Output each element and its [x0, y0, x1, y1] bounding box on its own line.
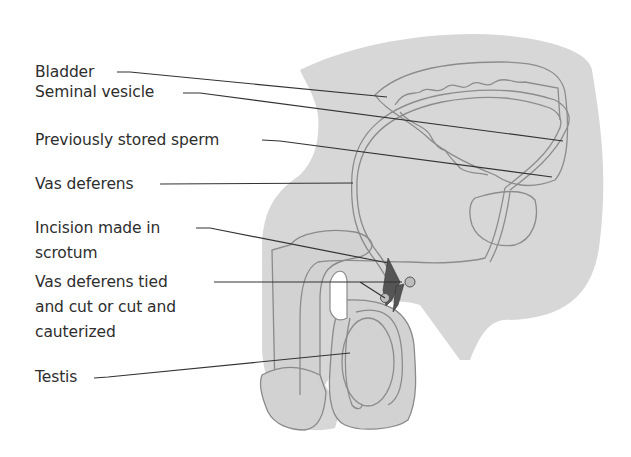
label-previously-stored-sperm: Previously stored sperm	[35, 128, 219, 153]
tied-vas-knot-upper	[405, 277, 415, 287]
penis-opening	[330, 271, 347, 320]
label-seminal-vesicle: Seminal vesicle	[35, 80, 154, 105]
label-vas-deferens: Vas deferens	[35, 172, 134, 197]
glans	[260, 368, 326, 431]
label-incision: Incision made in scrotum	[35, 216, 160, 266]
label-vas-tied: Vas deferens tied and cut or cut and cau…	[35, 270, 176, 345]
label-testis: Testis	[35, 365, 77, 390]
